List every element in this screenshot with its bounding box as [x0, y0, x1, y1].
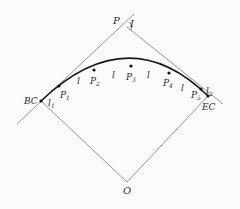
point-p3 — [129, 64, 132, 67]
label-p4: P4 — [162, 78, 173, 89]
label-p1: P1 — [59, 90, 70, 101]
radius-ec — [127, 96, 208, 182]
label-bc: BC — [23, 96, 38, 106]
point-bc — [39, 99, 42, 102]
left-tangent-line — [17, 14, 134, 124]
point-p4 — [167, 71, 170, 74]
label-arc-l-2: l — [112, 70, 115, 80]
curve-layout-diagram: P I BC EC O P1 P2 P3 P4 P5 l1 l2 l l l l — [0, 0, 240, 209]
label-l1: l1 — [48, 98, 55, 109]
label-l2: l2 — [206, 86, 213, 97]
radius-bc — [41, 101, 127, 182]
label-center-o: O — [123, 185, 131, 196]
point-p5 — [199, 87, 202, 90]
label-deflection-i: I — [129, 18, 135, 29]
label-vertex-p: P — [112, 15, 120, 26]
label-p3: P3 — [125, 72, 136, 83]
label-ec: EC — [201, 102, 216, 112]
point-p1 — [57, 84, 60, 87]
label-arc-l-1: l — [77, 76, 80, 86]
label-arc-l-3: l — [147, 70, 150, 80]
label-arc-l-4: l — [181, 83, 184, 93]
label-p5: P5 — [190, 90, 201, 101]
point-p2 — [92, 68, 95, 71]
label-p2: P2 — [89, 76, 100, 87]
